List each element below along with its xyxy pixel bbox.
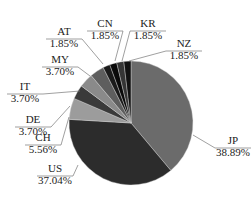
slice-label-it: IT3.70% xyxy=(5,80,45,104)
slice-label-us: US37.04% xyxy=(35,162,75,186)
slice-percent: 1.85% xyxy=(85,29,125,41)
slice-percent: 3.70% xyxy=(13,125,53,137)
slice-label-kr: KR1.85% xyxy=(128,17,168,41)
slice-percent: 38.89% xyxy=(213,146,251,158)
slice-name: CN xyxy=(85,17,125,29)
slice-name: DE xyxy=(13,113,53,125)
slice-percent: 1.85% xyxy=(44,37,84,49)
slice-percent: 5.56% xyxy=(23,143,63,155)
slice-label-de: DE3.70% xyxy=(13,113,53,137)
slice-percent: 3.70% xyxy=(5,92,45,104)
slice-name: KR xyxy=(128,17,168,29)
slice-percent: 1.85% xyxy=(128,29,168,41)
slice-name: NZ xyxy=(164,37,204,49)
slice-label-at: AT1.85% xyxy=(44,25,84,49)
slice-percent: 1.85% xyxy=(164,49,204,61)
slice-label-jp: JP38.89% xyxy=(213,134,251,158)
slice-label-cn: CN1.85% xyxy=(85,17,125,41)
slice-label-my: MY3.70% xyxy=(40,53,80,77)
slice-name: AT xyxy=(44,25,84,37)
slice-name: MY xyxy=(40,53,80,65)
slice-percent: 3.70% xyxy=(40,65,80,77)
pie-slices xyxy=(69,61,193,185)
slice-label-nz: NZ1.85% xyxy=(164,37,204,61)
slice-name: IT xyxy=(5,80,45,92)
slice-percent: 37.04% xyxy=(35,174,75,186)
slice-name: US xyxy=(35,162,75,174)
slice-name: JP xyxy=(213,134,251,146)
